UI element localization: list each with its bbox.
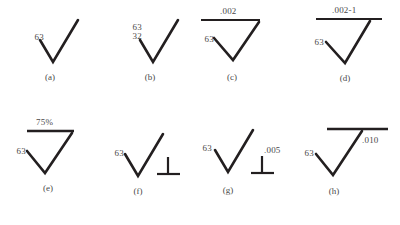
check-stroke [316, 131, 362, 175]
checkmark-f [100, 112, 200, 224]
bar-label-c: .002 [220, 6, 237, 16]
panel-c: 63 .002 (c) [200, 0, 300, 112]
left-value-d: 63 [296, 37, 324, 47]
stacked-value-b: 32 [114, 32, 142, 41]
caption-b: (b) [130, 72, 170, 82]
check-stroke [326, 21, 370, 63]
check-stroke [214, 22, 259, 60]
caption-d: (d) [325, 73, 365, 83]
check-stroke [27, 133, 72, 173]
caption-e: (e) [28, 183, 68, 193]
checkmark-b [100, 0, 200, 112]
bar-label-d: .002-1 [332, 5, 356, 15]
left-value-e: 63 [0, 146, 26, 156]
panel-a: 63 (a) [0, 0, 100, 112]
panel-h: 63 .010 (h) [300, 112, 400, 224]
caption-c: (c) [212, 72, 252, 82]
checkmark-a [0, 0, 100, 112]
panel-f: 63 (f) [100, 112, 200, 224]
panel-d: 63 .002-1 (d) [300, 0, 400, 112]
panel-g: 63 .005 (g) [200, 112, 300, 224]
panel-b: 63 32 (b) [100, 0, 200, 112]
checkmark-d [300, 0, 400, 112]
left-value-f: 63 [96, 148, 124, 158]
check-stroke [140, 20, 178, 62]
perpendicular-icon [157, 157, 180, 174]
checkmark-g [200, 112, 300, 224]
checkmark-c [200, 0, 300, 112]
bar-label-e: 75% [36, 117, 53, 127]
bar-label-h: .010 [362, 135, 379, 145]
proofreader-marks-figure: 63 (a) 63 32 (b) 63 .002 (c) 63 .002-1 (… [0, 0, 400, 225]
left-value-c: 63 [186, 34, 214, 44]
caption-f: (f) [118, 186, 158, 196]
caption-g: (g) [208, 185, 248, 195]
check-stroke [40, 20, 78, 62]
left-value-a: 63 [16, 32, 44, 42]
panel-e: 63 75% (e) [0, 112, 100, 224]
caption-a: (a) [30, 72, 70, 82]
check-stroke [125, 134, 163, 176]
left-value-g: 63 [184, 143, 212, 153]
perp-label-g: .005 [264, 145, 281, 155]
checkmark-e [0, 112, 100, 224]
caption-h: (h) [314, 186, 354, 196]
checkmark-h [300, 112, 400, 224]
check-stroke [215, 130, 253, 172]
left-value-h: 63 [286, 148, 314, 158]
perpendicular-icon [251, 156, 274, 173]
